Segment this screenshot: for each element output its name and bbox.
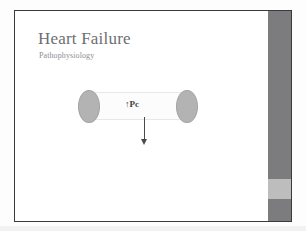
presentation-slide[interactable]: Heart Failure Pathophysiology ↑Pc — [14, 10, 292, 222]
page-edge — [0, 226, 306, 231]
right-band-lower-segment — [268, 199, 291, 222]
right-decorative-band — [268, 11, 291, 222]
capillary-wall-top — [89, 92, 189, 93]
capillary-wall-bottom — [89, 119, 189, 120]
capillary-cell-right — [176, 90, 198, 123]
capillary-cell-left — [78, 90, 100, 123]
downward-arrow-shaft-icon — [144, 117, 145, 140]
screenshot-canvas: Heart Failure Pathophysiology ↑Pc — [0, 0, 306, 231]
capillary-lumen — [89, 93, 189, 119]
slide-subtitle: Pathophysiology — [39, 51, 94, 60]
capillary-pressure-label: ↑Pc — [125, 99, 139, 109]
slide-title: Heart Failure — [38, 29, 131, 49]
downward-arrow-head-icon — [141, 139, 147, 145]
right-band-accent-segment — [268, 179, 291, 199]
